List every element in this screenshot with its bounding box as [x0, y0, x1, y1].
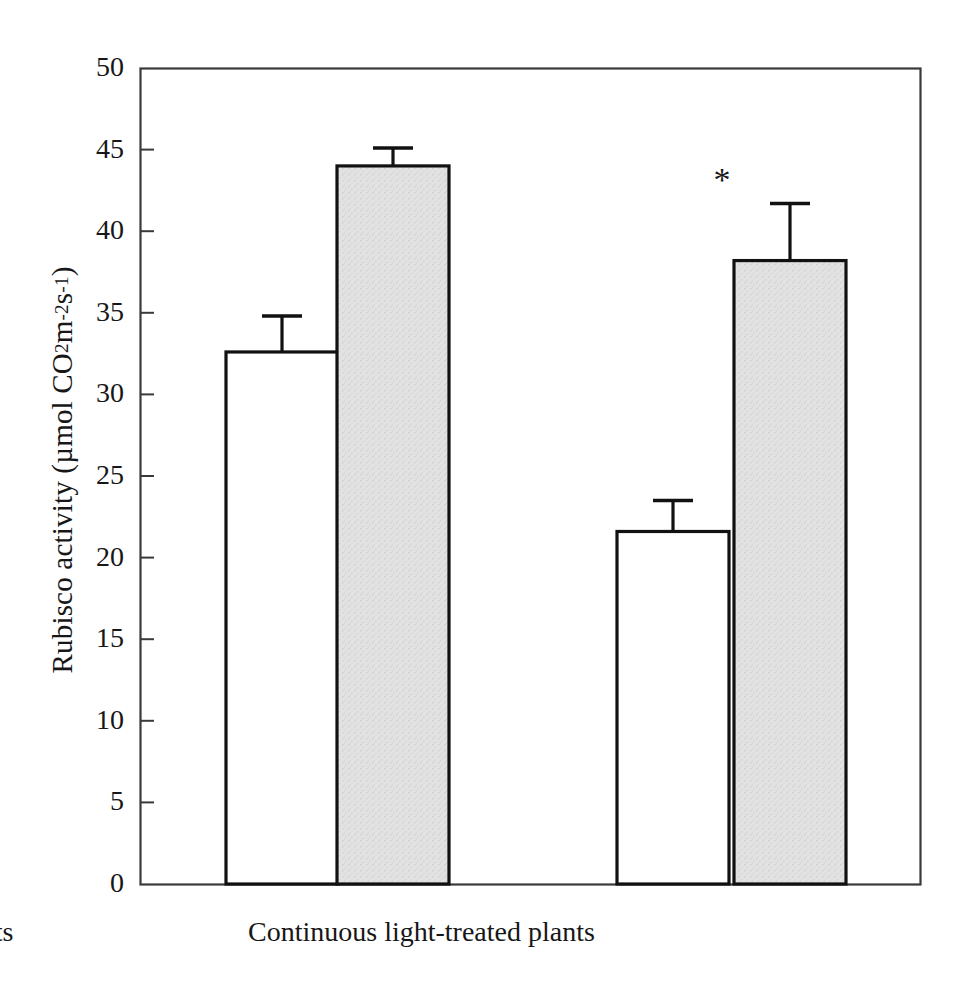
y-tick-label-25: 25: [96, 461, 124, 489]
x-category-label-2: Continuous light-treated plants: [248, 918, 595, 946]
bar-control-open-bar: [226, 352, 338, 884]
y-tick-label-50: 50: [96, 53, 124, 81]
y-tick-label-40: 40: [96, 216, 124, 244]
plot-area: [0, 0, 965, 991]
figure-container: Rubisco activity (µmol CO2 m-2 s-1) 0510…: [0, 0, 965, 991]
bar-cl-open-bar: [617, 531, 729, 884]
y-tick-label-20: 20: [96, 543, 124, 571]
y-tick-label-35: 35: [96, 298, 124, 326]
bar-cl-shaded-bar: [734, 261, 846, 884]
y-tick-label-30: 30: [96, 379, 124, 407]
y-tick-label-0: 0: [110, 869, 124, 897]
y-tick-label-45: 45: [96, 135, 124, 163]
y-tick-label-5: 5: [110, 787, 124, 815]
y-tick-label-15: 15: [96, 624, 124, 652]
y-tick-label-10: 10: [96, 706, 124, 734]
bar-group: [226, 166, 846, 884]
y-axis-ticks: [140, 150, 154, 803]
significance-asterisk: *: [710, 163, 734, 197]
bar-control-shaded-bar: [337, 166, 449, 884]
x-category-label-1: Control plants: [0, 918, 13, 946]
